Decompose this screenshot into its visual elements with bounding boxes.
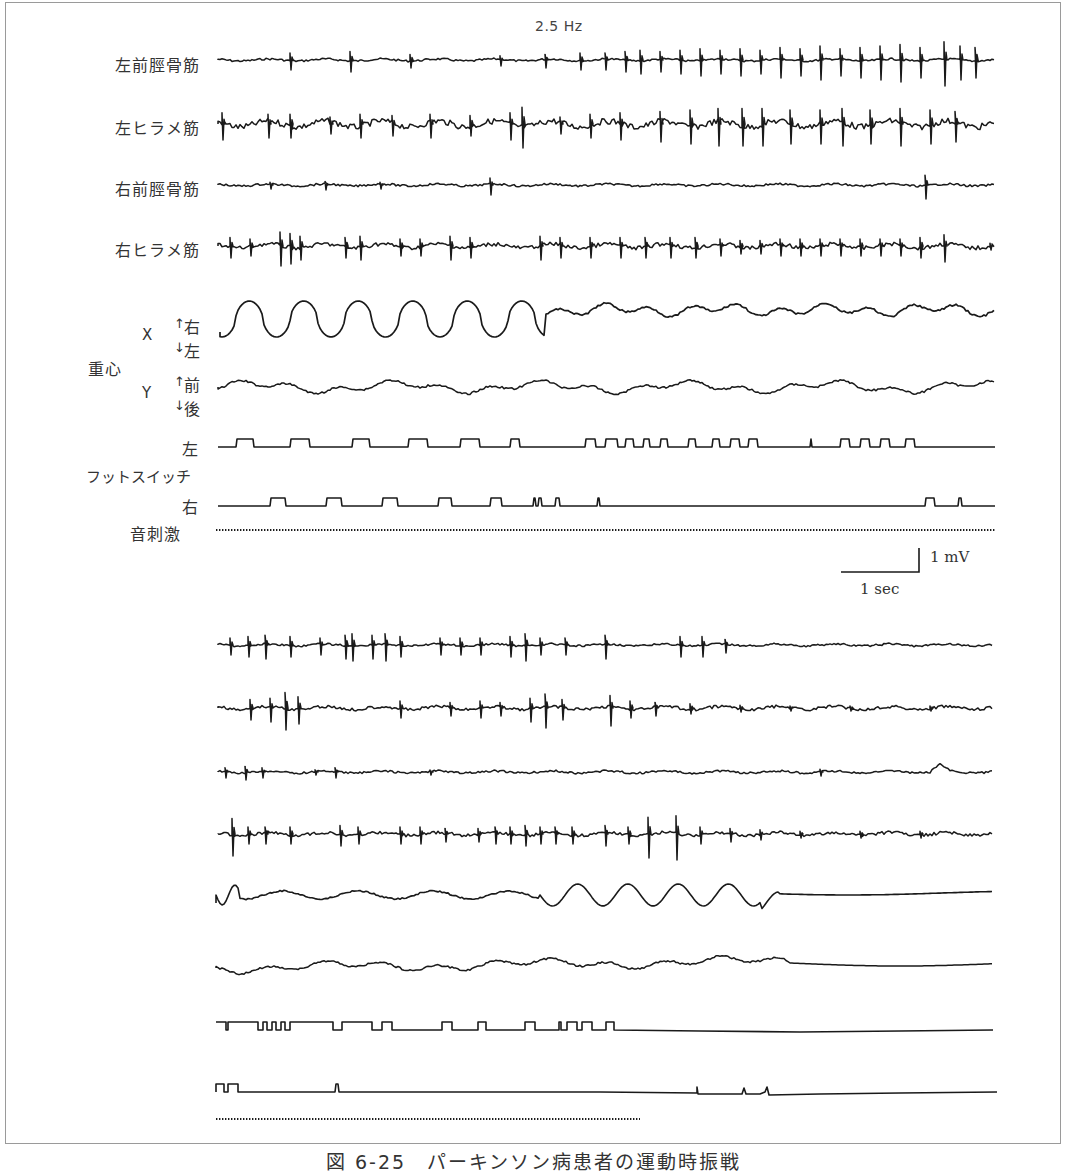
emg-trace xyxy=(218,764,992,780)
footswitch-trace xyxy=(218,498,995,506)
cog-x-trace xyxy=(216,884,992,909)
cog-y-trace xyxy=(216,956,992,975)
emg-trace xyxy=(218,42,994,86)
lower-panel-traces xyxy=(216,634,997,1119)
footswitch-trace xyxy=(216,1084,997,1095)
emg-trace xyxy=(218,816,992,860)
cog-y-trace xyxy=(218,380,994,395)
upper-panel-traces xyxy=(216,42,995,530)
emg-trace xyxy=(218,107,994,148)
footswitch-trace xyxy=(218,439,995,447)
emg-trace xyxy=(218,175,994,199)
footswitch-trace xyxy=(216,1022,993,1032)
cog-x-trace xyxy=(220,301,994,337)
figure-caption: 図 6-25 パーキンソン病患者の運動時振戦 xyxy=(0,1147,1067,1174)
emg-trace xyxy=(218,634,992,661)
scale-bar xyxy=(841,548,919,572)
emg-trace xyxy=(218,693,992,730)
emg-trace xyxy=(218,232,994,266)
